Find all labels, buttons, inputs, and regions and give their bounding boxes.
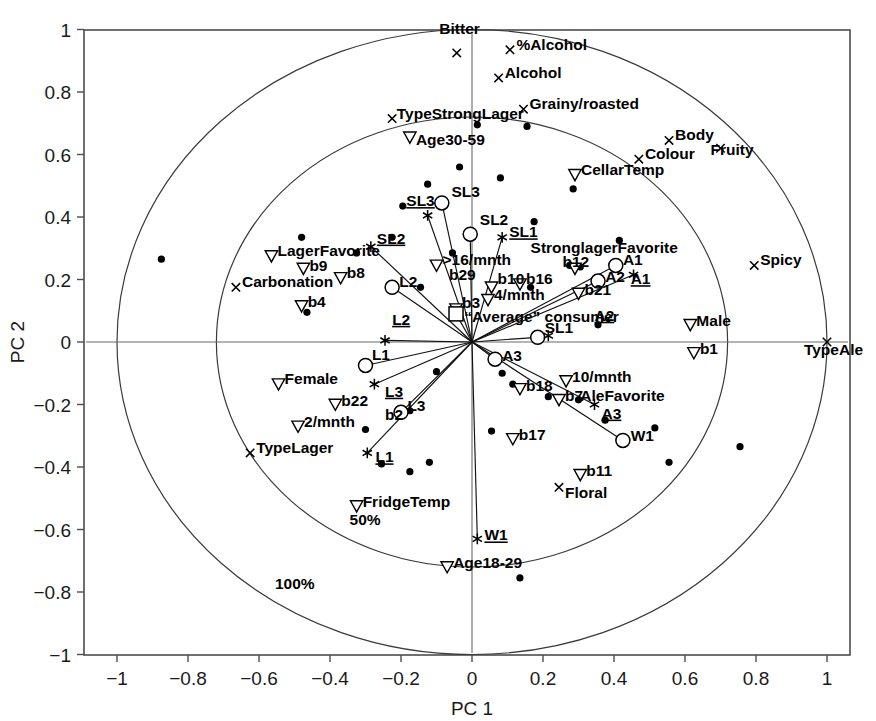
- segment-vectors-star-point-SL1-label: SL1: [509, 223, 538, 240]
- attributes-point-TypeStrongLager-label: TypeStrongLager: [397, 105, 524, 122]
- score-dot-6: [497, 174, 504, 181]
- score-dot-9: [399, 202, 406, 209]
- score-dot-11: [570, 185, 577, 192]
- ytick-label-4: −0.2: [33, 395, 71, 416]
- score-dot-7: [474, 121, 481, 128]
- attributes-point-TypeLager-label: TypeLager: [256, 439, 333, 456]
- xtick-label-9: 0.8: [743, 668, 769, 689]
- ytick-label-1: −0.8: [33, 582, 71, 603]
- xtick-label-3: −0.4: [311, 668, 349, 689]
- pca-biplot-svg: Bitter%AlcoholAlcoholGrainy/roastedTypeS…: [0, 0, 876, 721]
- pca-biplot-figure: Bitter%AlcoholAlcoholGrainy/roastedTypeS…: [0, 0, 876, 721]
- score-dot-4: [424, 181, 431, 188]
- segment-scores-circle-point-A3-label: A3: [502, 347, 522, 364]
- segment-scores-circle-point-L2-circle-marker: [385, 280, 399, 294]
- segment-vectors-star-point-SL3-label: SL3: [406, 192, 435, 209]
- demographics-point-b17-label: b17: [519, 426, 546, 443]
- segment-vectors-star-point-L3-label: L3: [385, 383, 403, 400]
- ytick-label-7: 0.4: [45, 207, 72, 228]
- segment-scores-circle-point-SL1-circle-marker: [531, 330, 545, 344]
- circle-label-50pct: 50%: [350, 511, 381, 528]
- attributes-point-Bitter-label: Bitter: [439, 20, 479, 37]
- demographics-point-b10-label: b10: [498, 270, 525, 287]
- attributes-point-Alcohol-label: Alcohol: [505, 64, 562, 81]
- segment-scores-circle-point-SL3-circle-marker: [435, 196, 449, 210]
- attributes-point-Floral-label: Floral: [565, 484, 607, 501]
- segment-vectors-star-point-L1-label: L1: [375, 448, 393, 465]
- segment-scores-circle-point-W1-circle-marker: [616, 433, 630, 447]
- segment-scores-circle-point-L3-label: L3: [407, 397, 425, 414]
- segment-scores-circle-point-SL2-label: SL2: [480, 211, 508, 228]
- score-dot-22: [499, 370, 506, 377]
- attributes-point-Grainyroasted-label: Grainy/roasted: [530, 95, 639, 112]
- score-dot-30: [736, 443, 743, 450]
- attributes-point-Carbonation-label: Carbonation: [242, 273, 333, 290]
- attributes-point-TypeAle-label: TypeAle: [804, 341, 864, 358]
- segment-scores-circle-point-W1-label: W1: [631, 427, 655, 444]
- score-dot-29: [665, 459, 672, 466]
- demographics-point-b11-label: b11: [586, 462, 612, 479]
- ytick-label-8: 0.6: [45, 145, 71, 166]
- score-dot-8: [523, 123, 530, 130]
- favorite-attributes-point-b29-label: b29: [449, 266, 476, 283]
- xtick-label-7: 0.4: [601, 668, 628, 689]
- ytick-label-10: 1: [60, 20, 71, 41]
- score-dot-24: [488, 427, 495, 434]
- favorite-attributes-point-StronglagerFavorite-label: StronglagerFavorite: [531, 239, 679, 256]
- demographics-point-Female-label: Female: [285, 370, 339, 387]
- xaxis-title: PC 1: [451, 698, 493, 719]
- score-dot-16: [433, 368, 440, 375]
- ytick-label-6: 0.2: [45, 270, 71, 291]
- attributes-point-Body-label: Body: [675, 126, 714, 143]
- ytick-label-0: −1: [49, 645, 71, 666]
- demographics-point-2mnth-label: 2/mnth: [304, 413, 355, 430]
- demographics-point-Age1829-label: Age18-29: [453, 554, 522, 571]
- demographics-point-4mnth-label: 4/mnth: [494, 286, 545, 303]
- segment-scores-circle-point-SL3-label: SL3: [451, 183, 480, 200]
- segment-scores-circle-point-SL2-circle-marker: [463, 227, 477, 241]
- demographics-point-FridgeTemp-label: FridgeTemp: [363, 493, 451, 510]
- ytick-label-9: 0.8: [45, 82, 71, 103]
- score-dot-21: [426, 459, 433, 466]
- favorite-attributes-point-AleFavorite-label: AleFavorite: [580, 387, 665, 404]
- ytick-label-5: 0: [60, 332, 71, 353]
- attributes-point-Colour-label: Colour: [645, 145, 695, 162]
- demographics-point-Male-label: Male: [696, 312, 731, 329]
- xtick-label-4: −0.2: [382, 668, 420, 689]
- xtick-label-8: 0.6: [672, 668, 698, 689]
- demographics-point-b22-label: b22: [341, 392, 368, 409]
- segment-scores-circle-point-L1-label: L1: [372, 346, 390, 363]
- favorite-attributes-point-b2-label: b2: [385, 406, 403, 423]
- demographics-point-b18-label: b18: [526, 377, 553, 394]
- demographics-point-CellarTemp-label: CellarTemp: [581, 161, 664, 178]
- attributes-point-Spicy-label: Spicy: [760, 251, 802, 268]
- ytick-label-2: −0.6: [33, 520, 71, 541]
- circle-label-100pct: 100%: [275, 575, 315, 592]
- segment-vectors-star-point-A1-label: A1: [631, 270, 651, 287]
- segment-vectors-star-point-A3-label: A3: [602, 405, 622, 422]
- xtick-label-0: −1: [106, 668, 128, 689]
- demographics-point-b4-label: b4: [308, 293, 326, 310]
- demographics-point-10mnth-label: 10/mnth: [572, 368, 631, 385]
- xtick-label-6: 0.2: [530, 668, 556, 689]
- segment-scores-circle-point-L1-circle-marker: [359, 358, 373, 372]
- attributes-point-Alcohol-label: %Alcohol: [516, 36, 587, 53]
- segment-vectors-star-point-L2-label: L2: [392, 311, 410, 328]
- score-dot-31: [516, 574, 523, 581]
- score-dot-18: [362, 426, 369, 433]
- demographics-point-b9-label: b9: [309, 257, 327, 274]
- ytick-label-3: −0.4: [33, 457, 71, 478]
- score-dot-13: [417, 284, 424, 291]
- xtick-label-10: 1: [822, 668, 833, 689]
- demographics-point-LagerFavorite-label: LagerFavorite: [277, 242, 380, 259]
- score-dot-1: [298, 234, 305, 241]
- average-consumer-point-Averageconsumer-label: “Average” consumer: [464, 308, 619, 325]
- score-dot-0: [158, 256, 165, 263]
- demographics-point-b1-label: b1: [700, 340, 718, 357]
- score-dot-20: [406, 468, 413, 475]
- yaxis-title: PC 2: [7, 321, 28, 363]
- demographics-point-b8-label: b8: [347, 264, 365, 281]
- score-dot-5: [456, 163, 463, 170]
- demographics-point-b16-label: b16: [526, 270, 553, 287]
- xtick-label-2: −0.6: [240, 668, 278, 689]
